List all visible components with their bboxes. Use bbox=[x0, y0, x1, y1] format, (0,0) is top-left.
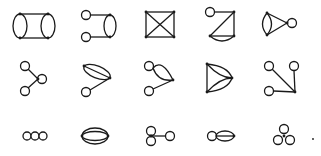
graph-g5 bbox=[263, 12, 297, 37]
graph-g7 bbox=[82, 61, 113, 96]
graph-g1 bbox=[13, 13, 55, 40]
graph-g3 bbox=[145, 11, 176, 39]
graph-g15 bbox=[274, 125, 295, 145]
graph-g4 bbox=[206, 8, 236, 42]
graph-g13 bbox=[147, 127, 175, 146]
graph-g11 bbox=[23, 132, 47, 140]
graph-g14 bbox=[208, 131, 236, 141]
graph-diagram-grid bbox=[0, 0, 321, 156]
graph-g9 bbox=[206, 63, 234, 94]
graph-g10 bbox=[265, 62, 299, 96]
graph-g6 bbox=[21, 62, 47, 96]
graph-g8 bbox=[145, 62, 175, 96]
trailing-period-mark bbox=[312, 138, 314, 140]
graph-g12 bbox=[81, 128, 110, 144]
graph-g2 bbox=[82, 11, 117, 42]
